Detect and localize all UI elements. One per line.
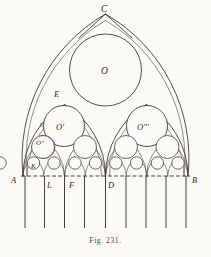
label-A: A (10, 175, 17, 185)
circle-foil-8b (172, 157, 184, 169)
label-O-prime: O' (56, 122, 64, 132)
circle-foil-2 (48, 157, 60, 169)
circle-foil-5 (110, 157, 122, 169)
label-L: L (46, 180, 52, 190)
label-K: K (30, 162, 36, 170)
circle-bay3 (115, 136, 138, 159)
label-B: B (192, 175, 197, 185)
label-O: O (101, 66, 108, 76)
label-C: C (101, 4, 108, 14)
circle-foil-6 (130, 157, 142, 169)
label-D: D (107, 180, 115, 190)
label-E: E (53, 89, 60, 99)
geometry-diagram: C O E O' O''' O'' S K A B L F D (0, 0, 211, 257)
figure-container: C O E O' O''' O'' S K A B L F D Fig. 231… (0, 0, 211, 257)
circle-bay2 (74, 136, 97, 159)
circle-foil-3 (69, 157, 81, 169)
label-O-double: O'' (36, 139, 45, 147)
figure-caption: Fig. 231. (0, 236, 211, 245)
circle-foil-8 (0, 157, 6, 169)
circle-foil-4 (89, 157, 101, 169)
label-F: F (68, 180, 75, 190)
label-O-triple: O''' (137, 122, 149, 132)
label-S: S (40, 122, 43, 128)
circle-foil-7 (151, 157, 163, 169)
circle-bay4 (156, 136, 179, 159)
